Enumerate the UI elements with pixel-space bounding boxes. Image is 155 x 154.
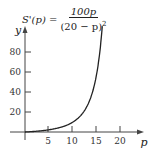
y-axis-arrow-icon — [23, 26, 28, 33]
function-curve — [25, 26, 102, 132]
chart-plot-area: 5 10 15 20 p 20 40 60 80 y — [0, 0, 155, 154]
svg-text:10: 10 — [66, 136, 78, 146]
svg-text:80: 80 — [10, 47, 22, 57]
x-tick-labels: 5 10 15 20 — [45, 136, 126, 146]
x-axis-label: p — [140, 136, 147, 149]
svg-text:15: 15 — [90, 136, 102, 146]
y-axis-label: y — [14, 24, 22, 37]
y-ticks — [25, 52, 31, 112]
x-axis-arrow-icon — [137, 130, 144, 135]
x-ticks — [48, 126, 120, 132]
svg-text:60: 60 — [10, 67, 22, 77]
svg-text:5: 5 — [45, 136, 51, 146]
svg-text:20: 20 — [114, 136, 126, 146]
svg-text:40: 40 — [10, 87, 22, 97]
svg-text:20: 20 — [10, 107, 22, 117]
y-tick-labels: 20 40 60 80 — [10, 47, 22, 117]
